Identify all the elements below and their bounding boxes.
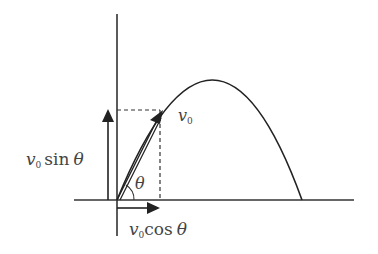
horizontal-component-arrow — [117, 202, 160, 214]
angle-arc — [126, 185, 134, 200]
horizontal-component-label: v0cosθ — [129, 219, 187, 240]
vertical-component-arrow — [102, 109, 114, 200]
parabolic-trajectory — [117, 80, 302, 200]
angle-label: θ — [135, 174, 145, 193]
projectile-diagram: θ v0 v0sinθ v0cosθ — [0, 0, 378, 254]
v0-label: v0 — [178, 106, 193, 126]
vertical-component-label: v0sinθ — [26, 149, 84, 170]
